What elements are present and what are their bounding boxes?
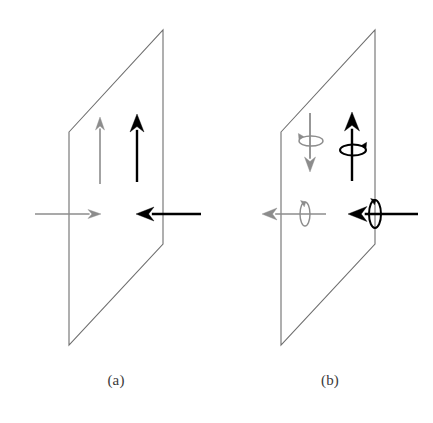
gray-right-arrow xyxy=(35,210,101,219)
gray-left-arrow xyxy=(262,208,326,220)
black-left-arrow-head xyxy=(136,207,154,221)
panel-a xyxy=(35,30,201,345)
plane-outline-a xyxy=(69,30,163,345)
black-left-arrow-head xyxy=(348,207,367,222)
panel-b-caption: (b) xyxy=(290,372,370,389)
black-left-arrow xyxy=(136,207,201,221)
gray-up-arrow xyxy=(96,117,105,184)
black-up-arrow-head xyxy=(345,112,360,131)
black-spin-loop-horizontal xyxy=(340,142,367,155)
gray-up-arrow-head xyxy=(96,117,105,130)
plane-outline-b xyxy=(281,30,375,345)
figure-container: (a) (b) xyxy=(0,0,433,423)
black-left-arrow xyxy=(348,207,418,222)
gray-down-arrow-head xyxy=(305,157,316,172)
panel-a-caption: (a) xyxy=(76,372,156,389)
black-up-arrow xyxy=(130,114,144,182)
panel-b xyxy=(262,30,418,345)
diagram-canvas xyxy=(0,0,433,423)
gray-down-arrow xyxy=(305,113,316,172)
black-up-arrow-head xyxy=(130,114,144,132)
gray-left-arrow-head xyxy=(262,208,277,220)
gray-right-arrow-head xyxy=(88,210,101,219)
black-up-arrow xyxy=(345,112,360,181)
